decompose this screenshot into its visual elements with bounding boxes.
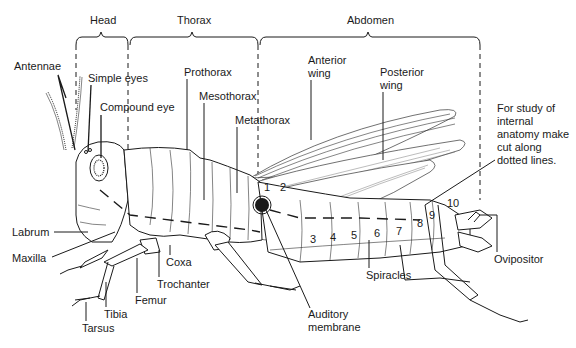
label-auditory-membrane-1: Auditory	[308, 308, 349, 320]
svg-text:For study of: For study of	[497, 102, 556, 114]
label-tibia: Tibia	[104, 308, 128, 320]
label-maxilla: Maxilla	[12, 252, 47, 264]
svg-text:dotted lines.: dotted lines.	[497, 154, 556, 166]
svg-text:1: 1	[264, 181, 270, 193]
leader-simple-eyes	[88, 85, 91, 152]
label-posterior-wing-1: Posterior	[380, 66, 424, 78]
svg-text:3: 3	[310, 233, 316, 245]
svg-text:5: 5	[351, 229, 357, 241]
label-auditory-membrane-2: membrane	[308, 321, 361, 333]
label-compound-eye: Compound eye	[100, 101, 175, 113]
label-tarsus: Tarsus	[82, 322, 115, 334]
label-prothorax: Prothorax	[184, 66, 232, 78]
label-posterior-wing-2: wing	[379, 79, 403, 91]
svg-text:8: 8	[417, 217, 423, 229]
svg-text:10: 10	[447, 197, 459, 209]
leader-antennae	[58, 75, 75, 150]
label-spiracles: Spiracles	[366, 269, 412, 281]
svg-text:2: 2	[280, 181, 286, 193]
svg-text:7: 7	[396, 225, 402, 237]
region-label-head: Head	[90, 14, 116, 26]
label-anterior-wing-2: wing	[307, 67, 331, 79]
label-simple-eyes: Simple eyes	[88, 72, 148, 84]
label-femur: Femur	[135, 294, 167, 306]
note-cut-instructions: For study of internal anatomy make cut a…	[497, 102, 569, 166]
svg-text:9: 9	[429, 209, 435, 221]
label-anterior-wing-1: Anterior	[308, 54, 347, 66]
label-ovipositor: Ovipositor	[494, 253, 544, 265]
grasshopper-diagram: Head Thorax Abdomen	[0, 0, 576, 348]
label-mesothorax: Mesothorax	[199, 90, 257, 102]
leader-note	[425, 160, 495, 205]
svg-text:internal: internal	[497, 115, 533, 127]
label-antennae: Antennae	[14, 60, 61, 72]
antennae-drawing	[46, 76, 82, 150]
label-trochanter: Trochanter	[157, 278, 210, 290]
svg-text:6: 6	[374, 227, 380, 239]
region-label-abdomen: Abdomen	[347, 14, 394, 26]
svg-text:cut along: cut along	[497, 141, 542, 153]
svg-text:anatomy make: anatomy make	[497, 128, 569, 140]
region-label-thorax: Thorax	[177, 14, 212, 26]
label-coxa: Coxa	[166, 256, 193, 268]
label-metathorax: Metathorax	[235, 114, 291, 126]
svg-text:4: 4	[330, 231, 336, 243]
label-labrum: Labrum	[12, 226, 49, 238]
